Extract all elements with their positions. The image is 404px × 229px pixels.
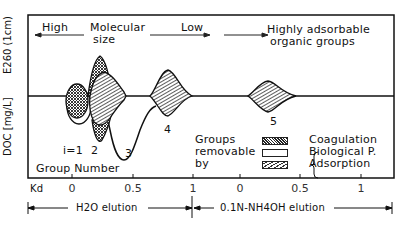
peak-label-3: 3 xyxy=(125,148,132,160)
peak-4-adsorption xyxy=(150,70,192,116)
y-label-e260: E260 (1cm) xyxy=(2,16,13,74)
peak-2-adsorption xyxy=(90,72,126,125)
legend-label-adsorption: Adsorption xyxy=(309,158,370,170)
y-label-doc: DOC [mg/L] xyxy=(2,97,13,156)
peak-label-1: i=1 xyxy=(63,145,83,157)
tick-h2o-0: 0 xyxy=(69,183,76,195)
label-size: size xyxy=(93,34,115,46)
tick-nh4oh-05: 0.5 xyxy=(291,183,309,195)
legend-swatch-biological xyxy=(262,149,288,157)
h2o-elution-label: H2O elution xyxy=(74,202,140,214)
legend-title-3: by xyxy=(195,158,209,170)
label-adsorbable-2: organic groups xyxy=(270,36,355,48)
peak-label-5: 5 xyxy=(270,116,277,128)
peak-label-2: 2 xyxy=(91,145,98,157)
tick-h2o-05: 0.5 xyxy=(124,183,142,195)
label-low: Low xyxy=(181,22,203,34)
header-arrows xyxy=(35,33,268,37)
legend-swatch-adsorption xyxy=(262,161,288,169)
tick-h2o-1: 1 xyxy=(190,183,197,195)
kd-label: Kd xyxy=(30,183,43,195)
tick-nh4oh-1: 1 xyxy=(358,183,365,195)
label-high: High xyxy=(42,22,68,34)
peak-5-adsorption xyxy=(248,81,296,112)
tick-nh4oh-0: 0 xyxy=(237,183,244,195)
peak-1-coagulation xyxy=(66,84,88,118)
nh4oh-elution-label: 0.1N-NH4OH elution xyxy=(218,202,327,214)
legend-swatch-coagulation xyxy=(262,137,288,145)
group-number-label: Group Number xyxy=(36,163,120,175)
peak-label-4: 4 xyxy=(164,124,171,136)
